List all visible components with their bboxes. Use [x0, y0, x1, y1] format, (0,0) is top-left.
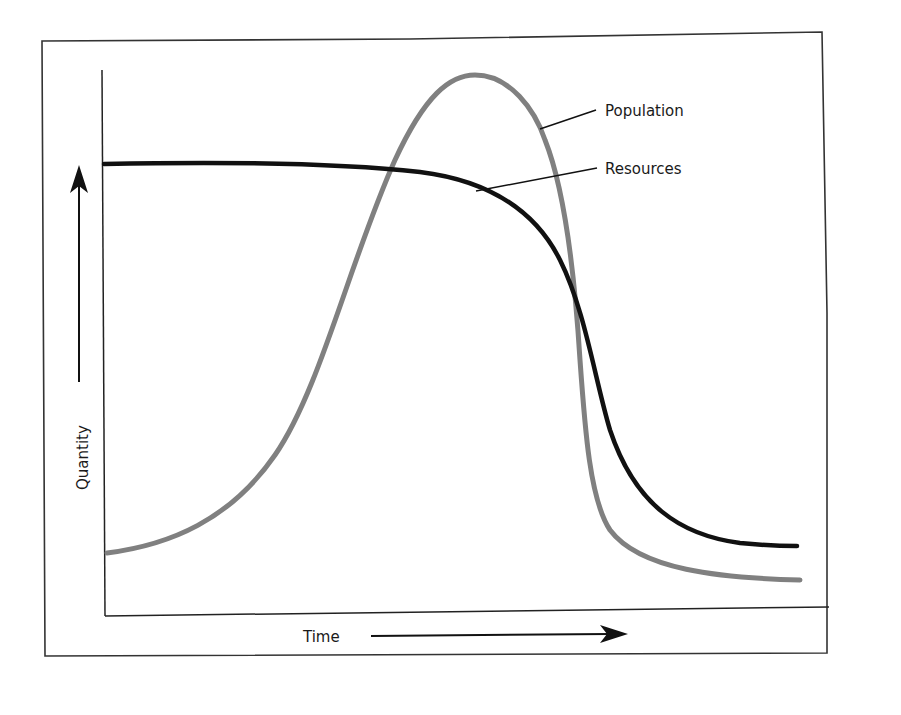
figure-frame	[42, 32, 827, 656]
x-axis-label-group: Time	[302, 625, 628, 646]
population-curve	[107, 75, 800, 580]
x-axis	[105, 607, 829, 616]
resources-leader-line	[476, 168, 597, 191]
x-axis-arrow-shaft	[371, 634, 610, 636]
y-axis-label-group: Quantity	[70, 165, 92, 490]
population-label: Population	[605, 102, 684, 120]
resources-label: Resources	[605, 160, 682, 178]
resources-curve	[104, 163, 797, 546]
population-resources-figure: Quantity Time Population Resources	[0, 0, 901, 715]
population-leader-line	[540, 110, 596, 129]
y-axis-label: Quantity	[74, 425, 92, 490]
y-axis	[102, 70, 105, 616]
x-axis-label: Time	[302, 628, 340, 646]
